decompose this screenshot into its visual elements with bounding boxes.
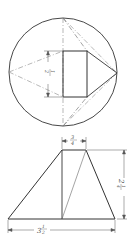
dim-top-den: 2 <box>44 69 50 73</box>
trapezoid-outline <box>8 150 115 219</box>
dimension-base-width <box>8 220 115 233</box>
front-view: 3 4 2 1 4 3 1 2 <box>8 134 127 235</box>
apex-edges <box>63 18 117 126</box>
dim-base-den: 2 <box>41 230 45 235</box>
top-view: 1 2 <box>9 18 117 126</box>
technical-drawing: 1 2 3 4 2 1 <box>0 0 136 245</box>
dimension-top-height <box>44 51 62 97</box>
dim-top-width-den: 4 <box>70 140 74 146</box>
dim-height-whole: 2 <box>117 178 125 184</box>
dim-base-num: 1 <box>42 224 45 229</box>
slant-edge <box>62 150 86 219</box>
top-face-rectangle <box>63 51 87 97</box>
dim-height-den: 4 <box>116 184 121 188</box>
dim-height-num: 1 <box>121 185 126 188</box>
